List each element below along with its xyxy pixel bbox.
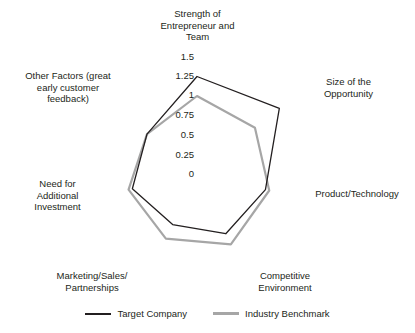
chart-legend: Target Company Industry Benchmark <box>0 308 415 319</box>
axis-label-other-factors: Other Factors (great early customer feed… <box>5 70 131 105</box>
tick-label-1: 1 <box>150 90 194 100</box>
radar-chart: 1.5 1.25 1 0.75 0.5 0.25 0 Strength of E… <box>0 0 415 333</box>
axis-label-need-for-additional-investment: Need for Additional Investment <box>10 178 105 213</box>
legend-entry-target-company: Target Company <box>85 308 187 319</box>
legend-entry-industry-benchmark: Industry Benchmark <box>213 308 329 319</box>
axis-label-product-technology: Product/Technology <box>301 188 413 200</box>
tick-label-1-5: 1.5 <box>150 52 194 62</box>
legend-swatch-target-company <box>85 313 111 315</box>
tick-label-0-5: 0.5 <box>150 130 194 140</box>
legend-swatch-industry-benchmark <box>213 312 239 315</box>
axis-label-strength-of-entrepreneur-and-team: Strength of Entrepreneur and Team <box>135 8 260 43</box>
axis-label-marketing-sales-partnerships: Marketing/Sales/ Partnerships <box>32 270 152 293</box>
axis-label-size-of-the-opportunity: Size of the Opportunity <box>296 76 401 99</box>
axis-label-competitive-environment: Competitive Environment <box>230 270 340 293</box>
tick-label-0-25: 0.25 <box>150 150 194 160</box>
tick-label-1-25: 1.25 <box>150 71 194 81</box>
legend-label-target-company: Target Company <box>117 308 187 319</box>
legend-label-industry-benchmark: Industry Benchmark <box>245 308 329 319</box>
tick-label-0: 0 <box>150 169 194 179</box>
tick-label-0-75: 0.75 <box>150 110 194 120</box>
